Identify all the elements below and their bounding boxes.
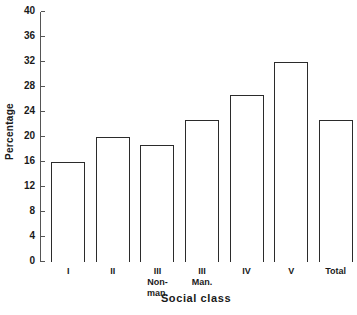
y-axis-title: Percentage	[0, 0, 18, 262]
x-tick-label: I	[45, 266, 91, 277]
y-axis-title-text: Percentage	[4, 103, 15, 160]
y-tick-label: 40	[24, 4, 35, 17]
x-tick-label: Total	[313, 266, 357, 277]
y-tick-label: 0	[29, 254, 35, 267]
x-axis-title: Social class	[40, 292, 352, 304]
bar-chart: Percentage 0481216202428323640 IIIIII No…	[0, 0, 357, 315]
bar[interactable]	[96, 137, 130, 262]
y-tick-label: 4	[29, 229, 35, 242]
bar-group[interactable]: III Man.	[185, 12, 219, 262]
y-tick-label: 20	[24, 129, 35, 142]
x-tick-label: II	[90, 266, 136, 277]
bar[interactable]	[140, 145, 174, 262]
bar[interactable]	[51, 162, 85, 262]
bar[interactable]	[230, 95, 264, 263]
bar-group[interactable]: I	[51, 12, 85, 262]
y-tick-label: 32	[24, 54, 35, 67]
bar-group[interactable]: IV	[230, 12, 264, 262]
x-tick-label: IV	[224, 266, 270, 277]
bar-group[interactable]: II	[96, 12, 130, 262]
y-tick-label: 24	[24, 104, 35, 117]
bar[interactable]	[185, 120, 219, 263]
bar-group[interactable]: V	[274, 12, 308, 262]
bar[interactable]	[274, 62, 308, 262]
y-tick-label: 12	[24, 179, 35, 192]
x-tick-label: III Man.	[179, 266, 225, 288]
bar[interactable]	[319, 120, 353, 263]
y-tick-label: 28	[24, 79, 35, 92]
y-tick-label: 36	[24, 29, 35, 42]
x-tick-label: V	[268, 266, 314, 277]
plot-area: 0481216202428323640 IIIIII Non- man.III …	[40, 12, 352, 262]
y-tick-label: 8	[29, 204, 35, 217]
bar-group[interactable]: Total	[319, 12, 353, 262]
y-tick-label: 16	[24, 154, 35, 167]
bars-layer: IIIIII Non- man.III Man.IVVTotal	[40, 12, 352, 262]
bar-group[interactable]: III Non- man.	[140, 12, 174, 262]
